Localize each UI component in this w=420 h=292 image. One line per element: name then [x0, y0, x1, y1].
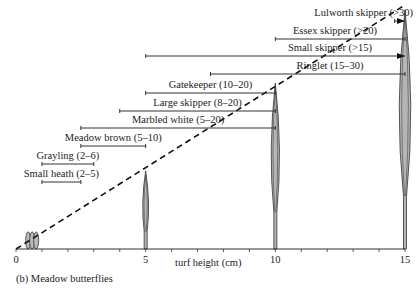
species-ranges: Small heath (2–5)Grayling (2–6)Meadow br…	[24, 7, 414, 184]
species-range: Large skipper (8–20)	[120, 97, 276, 113]
grass-clump	[143, 171, 149, 249]
species-label: Large skipper (8–20)	[153, 97, 242, 109]
grass-outline	[271, 83, 279, 249]
species-range: Meadow brown (5–10)	[65, 132, 162, 148]
species-label: Small skipper (>15)	[288, 42, 373, 54]
species-range: Marbled white (5–20)	[81, 114, 276, 130]
species-range: Small heath (2–5)	[24, 168, 100, 184]
species-label: Marbled white (5–20)	[132, 114, 225, 126]
species-label: Ringlet (15–30)	[297, 60, 364, 72]
figure-caption: (b) Meadow butterflies	[16, 273, 113, 285]
species-range: Grayling (2–6)	[37, 150, 100, 166]
species-label: Grayling (2–6)	[37, 150, 100, 162]
x-tick-label: 10	[270, 254, 281, 265]
species-label: Lulworth skipper (>30)	[314, 7, 413, 19]
species-label: Small heath (2–5)	[24, 168, 100, 180]
species-range: Ringlet (15–30)	[211, 60, 406, 76]
x-tick-label: 15	[400, 254, 411, 265]
grass-outline	[399, 10, 411, 249]
x-tick-label: 5	[143, 254, 148, 265]
grass-clump	[26, 232, 39, 249]
grass-clump	[399, 10, 411, 249]
species-label: Gatekeeper (10–20)	[169, 79, 253, 91]
species-range: Lulworth skipper (>30)	[314, 7, 413, 23]
meadow-butterflies-diagram: 051015 Small heath (2–5)Grayling (2–6)Me…	[0, 0, 420, 292]
grass-blade	[34, 232, 39, 249]
species-range: Gatekeeper (10–20)	[146, 79, 276, 95]
species-range: Small skipper (>15)	[146, 42, 405, 58]
grass-outline	[143, 171, 149, 249]
x-axis-label: turf height (cm)	[175, 257, 242, 269]
species-range: Essex skipper (>20)	[275, 25, 405, 41]
species-label: Essex skipper (>20)	[293, 25, 378, 37]
x-tick-label: 0	[13, 254, 18, 265]
species-label: Meadow brown (5–10)	[65, 132, 162, 144]
grass-clump	[271, 83, 279, 249]
